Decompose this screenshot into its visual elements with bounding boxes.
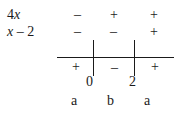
row-label-4x: 4x xyxy=(7,8,20,22)
sign-r1-c1: – xyxy=(74,8,81,22)
variable: x xyxy=(14,7,20,22)
sign-r2-c3: + xyxy=(150,25,158,39)
divider-at-0 xyxy=(93,40,94,76)
result-sign-2: – xyxy=(111,61,118,75)
sign-r2-c1: – xyxy=(74,25,81,39)
divider-at-2 xyxy=(134,40,135,76)
number-line xyxy=(57,57,174,58)
interval-label-2: b xyxy=(107,94,114,108)
interval-label-1: a xyxy=(71,94,77,108)
coefficient: 4 xyxy=(7,7,14,22)
sign-r2-c2: – xyxy=(110,25,117,39)
constant-term: – 2 xyxy=(13,24,34,39)
result-sign-3: + xyxy=(151,60,159,74)
sign-r1-c3: + xyxy=(150,8,158,22)
sign-r1-c2: + xyxy=(110,8,118,22)
interval-label-3: a xyxy=(144,94,150,108)
row-label-x-minus-2: x – 2 xyxy=(7,25,34,39)
result-sign-1: + xyxy=(72,60,80,74)
critical-point-2: 2 xyxy=(129,75,136,89)
critical-point-0: 0 xyxy=(86,75,93,89)
